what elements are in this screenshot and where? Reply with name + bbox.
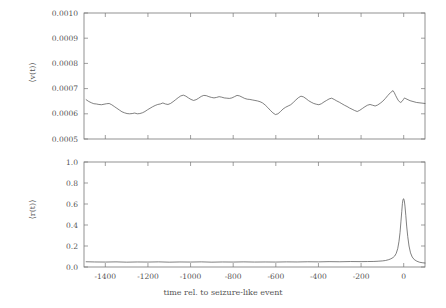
panel-bottom: ⟨r(t)⟩ 0.00.20.40.60.81.0-1400-1200-1000… [0, 150, 446, 308]
x-tick-label: 0 [401, 272, 406, 281]
x-tick-label: -600 [267, 272, 284, 281]
y-tick-label: 0.8 [66, 179, 78, 188]
y-axis-label-top: ⟨v(t)⟩ [28, 53, 37, 93]
x-tick-label: -1000 [180, 272, 202, 281]
x-tick-label: -400 [310, 272, 327, 281]
figure-container: ⟨v(t)⟩ 0.00050.00060.00070.00080.00090.0… [0, 0, 446, 308]
y-tick-label: 0.6 [66, 200, 78, 209]
plot-frame [84, 162, 425, 267]
data-series-line [86, 91, 425, 115]
plot-frame [84, 13, 425, 139]
plot-area-top: 0.00050.00060.00070.00080.00090.0010 [0, 0, 446, 150]
y-axis-label-bottom: ⟨r(t)⟩ [28, 190, 37, 230]
panel-top: ⟨v(t)⟩ 0.00050.00060.00070.00080.00090.0… [0, 0, 446, 150]
data-series-line [86, 199, 425, 263]
x-tick-label: -800 [225, 272, 242, 281]
x-tick-label: -200 [353, 272, 370, 281]
x-tick-label: -1200 [137, 272, 159, 281]
y-tick-label: 0.0010 [52, 9, 78, 18]
y-tick-label: 0.2 [66, 242, 78, 251]
y-tick-label: 0.4 [66, 221, 78, 230]
y-tick-label: 0.0008 [52, 59, 78, 68]
y-tick-label: 0.0 [66, 263, 78, 272]
plot-area-bottom: 0.00.20.40.60.81.0-1400-1200-1000-800-60… [0, 150, 446, 308]
x-tick-label: -1400 [95, 272, 117, 281]
x-axis-label: time rel. to seizure-like event [0, 288, 446, 297]
y-tick-label: 1.0 [66, 158, 78, 167]
y-tick-label: 0.0007 [52, 84, 78, 93]
y-tick-label: 0.0005 [52, 135, 78, 144]
y-tick-label: 0.0009 [52, 34, 78, 43]
y-tick-label: 0.0006 [52, 109, 78, 118]
